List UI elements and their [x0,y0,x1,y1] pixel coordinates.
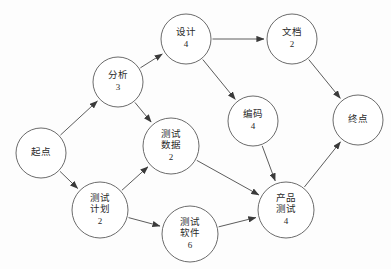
edge-testplan-to-testdata [122,167,148,190]
edge-testplan-to-testsoft [129,218,161,226]
node-weight-prodtest: 4 [284,216,289,226]
edge-start-to-testplan [60,171,78,188]
node-label-testsoft: 测试 [180,216,201,227]
node-design[interactable]: 设计4 [161,14,211,64]
node-weight-testdata: 2 [169,152,174,162]
edge-coding-to-prodtest [262,146,275,181]
node-prodtest[interactable]: 产品测试4 [258,182,314,238]
activity-network-diagram: 起点分析3设计4文档2编码4测试数据2测试计划2测试软件6产品测试4终点 [0,0,391,269]
node-weight-document: 2 [290,39,295,49]
edge-analysis-to-testdata [135,102,151,122]
node-label-testplan: 测试 [90,192,111,203]
node-label-coding: 编码 [243,108,264,119]
node-label-document: 文档 [282,26,303,37]
edge-start-to-analysis [60,101,97,135]
edge-testsoft-to-prodtest [219,218,256,227]
node-label-design: 设计 [176,26,197,37]
node-label-start: 起点 [31,147,52,157]
node-label-prodtest: 测试 [276,203,297,214]
node-start[interactable]: 起点 [16,128,66,178]
node-label-analysis: 分析 [108,69,129,80]
graph-svg: 起点分析3设计4文档2编码4测试数据2测试计划2测试软件6产品测试4终点 [0,0,391,269]
edge-document-to-end [309,60,341,99]
edge-testdata-to-prodtest [197,160,259,195]
node-label-testplan: 计划 [90,203,111,214]
node-coding[interactable]: 编码4 [228,96,278,146]
node-weight-coding: 4 [251,121,256,131]
edge-prodtest-to-end [304,142,340,187]
node-label-testdata: 测试 [161,128,182,139]
node-label-testdata: 数据 [161,139,182,150]
node-label-prodtest: 产品 [276,192,297,203]
node-weight-analysis: 3 [116,82,121,92]
edge-design-to-coding [203,60,236,100]
node-weight-testplan: 2 [98,216,103,226]
nodes-layer: 起点分析3设计4文档2编码4测试数据2测试计划2测试软件6产品测试4终点 [16,14,383,262]
node-testsoft[interactable]: 测试软件6 [162,206,218,262]
node-label-end: 终点 [348,113,369,124]
edge-analysis-to-design [140,54,162,68]
node-end[interactable]: 终点 [333,95,383,145]
node-testplan[interactable]: 测试计划2 [72,182,128,238]
node-analysis[interactable]: 分析3 [93,57,143,107]
node-testdata[interactable]: 测试数据2 [143,118,199,174]
node-weight-testsoft: 6 [188,240,193,250]
node-weight-design: 4 [184,39,189,49]
node-label-testsoft: 软件 [180,227,201,238]
node-document[interactable]: 文档2 [267,14,317,64]
